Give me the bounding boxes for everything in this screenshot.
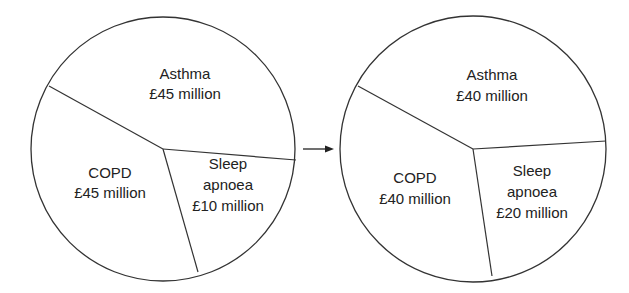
arrow-head <box>325 146 334 153</box>
slice-label-line: £45 million <box>149 85 221 102</box>
slice-label-line: apnoea <box>203 176 254 193</box>
slice-label-line: COPD <box>393 169 437 186</box>
slice-label-line: £40 million <box>379 190 451 207</box>
slice-label-line: £10 million <box>192 197 264 214</box>
slice-label-line: Sleep <box>209 155 247 172</box>
slice-label-line: Asthma <box>160 65 212 82</box>
slice-label-line: £45 million <box>74 184 146 201</box>
slice-label-line: £20 million <box>496 204 568 221</box>
right-arrow-icon <box>303 146 334 153</box>
slice-label-line: Asthma <box>467 66 519 83</box>
slice-label-line: £40 million <box>456 87 528 104</box>
slice-label-line: Sleep <box>513 162 551 179</box>
pie-chart-after: Asthma£40 millionCOPD£40 millionSleepapn… <box>340 16 606 282</box>
slice-label-line: apnoea <box>507 183 558 200</box>
pie-comparison-diagram: Asthma£45 millionCOPD£45 millionSleepapn… <box>0 0 629 293</box>
pie-chart-before: Asthma£45 millionCOPD£45 millionSleepapn… <box>31 17 296 281</box>
slice-label-line: COPD <box>88 164 132 181</box>
